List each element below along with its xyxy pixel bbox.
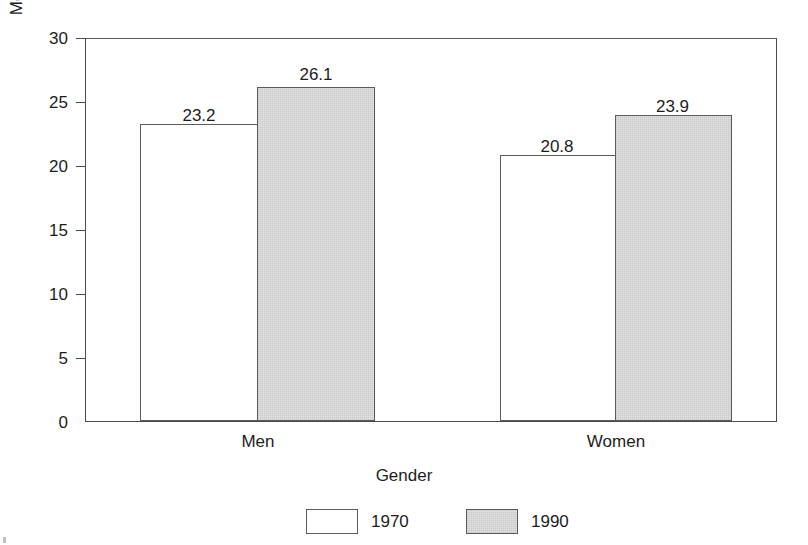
chart-legend: 1970 1990 [0,506,808,540]
y-tick-label-20: 20 [28,158,68,175]
legend-label-1970: 1970 [371,513,409,530]
bar-value-men-1990: 26.1 [256,66,376,83]
y-tick-mark-25 [76,102,85,103]
x-tick-label-women: Women [556,432,676,452]
y-tick-label-10: 10 [28,286,68,303]
y-tick-label-5: 5 [28,350,68,367]
bar-chart-figure: Median Age at First Marriage 30 25 20 15… [0,0,808,545]
bar-men-1970[interactable] [140,124,258,421]
y-tick-mark-5 [76,358,85,359]
y-tick-mark-10 [76,294,85,295]
y-axis-title-wrapper: Median Age at First Marriage [0,38,22,422]
scan-artifact [3,537,6,543]
y-tick-mark-15 [76,230,85,231]
legend-swatch-1970-icon [306,509,358,534]
legend-label-1990: 1990 [531,513,569,530]
y-tick-mark-20 [76,166,85,167]
bar-women-1970[interactable] [500,155,616,421]
x-tick-label-men: Men [198,432,318,452]
y-axis-title: Median Age at First Marriage [6,0,28,98]
y-tick-label-30: 30 [28,30,68,47]
x-axis-title: Gender [0,466,808,486]
legend-entry-1990[interactable]: 1990 [466,506,569,536]
y-tick-label-15: 15 [28,222,68,239]
bar-value-women-1990: 23.9 [614,98,731,115]
bar-men-1990[interactable] [257,87,375,421]
plot-area [85,38,777,422]
legend-entry-1970[interactable]: 1970 [306,506,409,536]
y-tick-label-0: 0 [28,414,68,431]
bar-value-women-1970: 20.8 [499,138,615,155]
legend-swatch-1990-icon [466,509,518,534]
bar-women-1990[interactable] [615,115,732,421]
y-tick-label-25: 25 [28,94,68,111]
y-tick-mark-30 [76,38,85,39]
bar-value-men-1970: 23.2 [139,107,259,124]
